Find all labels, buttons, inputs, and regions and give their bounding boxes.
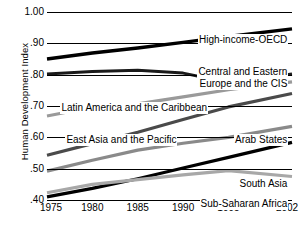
series-label-high-income-oecd: High-income-OECD xyxy=(198,34,288,46)
hdi-line-chart: Human Development Index 1.00.90.80.70.60… xyxy=(0,0,302,234)
y-tick-.50: .50 xyxy=(0,164,44,174)
series-label-central-and-eastern: Central and Eastern xyxy=(197,66,288,78)
series-label-arab-states: Arab States xyxy=(234,134,288,146)
x-tick-1985: 1985 xyxy=(127,202,149,214)
y-tick-.90: .90 xyxy=(0,38,44,48)
gridline-.50 xyxy=(47,169,292,170)
x-tick-1990: 1990 xyxy=(172,202,194,214)
x-tick-1975: 1975 xyxy=(40,202,62,214)
series-label-east-asia-and-the-pacific: East Asia and the Pacific xyxy=(65,134,177,146)
series-label-sub-saharan-africa: Sub-Saharan Africa xyxy=(200,198,289,210)
series-label-south-asia: South Asia xyxy=(239,178,289,190)
gridline-1.00 xyxy=(47,12,292,13)
x-tick-1980: 1980 xyxy=(81,202,103,214)
y-tick-.40: .40 xyxy=(0,195,44,205)
series-label-latin-america-and-the-caribbean: Latin America and the Caribbean xyxy=(60,102,208,114)
series-label-europe-and-the-cis: Europe and the CIS xyxy=(198,78,288,90)
y-tick-.80: .80 xyxy=(0,70,44,80)
y-tick-.70: .70 xyxy=(0,101,44,111)
y-tick-.60: .60 xyxy=(0,132,44,142)
y-tick-1.00: 1.00 xyxy=(0,7,44,17)
